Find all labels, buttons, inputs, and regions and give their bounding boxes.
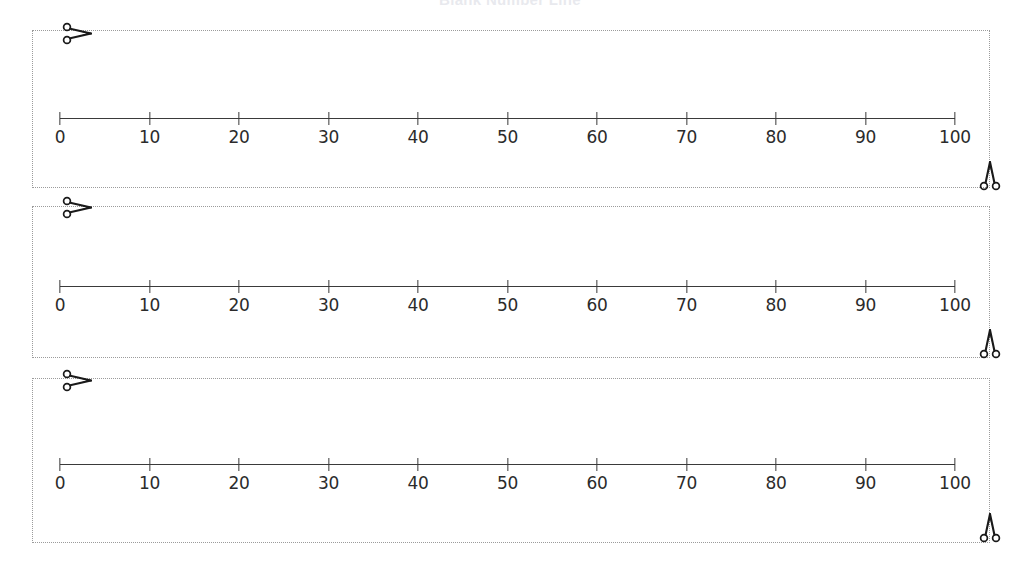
axis-tick — [507, 280, 508, 293]
axis-tick-label: 70 — [676, 473, 697, 493]
axis-tick — [686, 112, 687, 125]
axis-tick — [328, 112, 329, 125]
axis-tick-label: 0 — [55, 127, 66, 147]
axis-tick-label: 80 — [765, 295, 786, 315]
number-line: 0102030405060708090100 — [60, 273, 955, 317]
axis-tick-label: 10 — [139, 473, 160, 493]
axis-tick — [775, 458, 776, 471]
scissors-icon — [61, 195, 95, 221]
axis-tick-label: 50 — [497, 473, 518, 493]
axis-tick — [775, 280, 776, 293]
axis-tick-label: 10 — [139, 295, 160, 315]
axis-tick-label: 90 — [855, 127, 876, 147]
scissors-icon — [977, 326, 1003, 360]
axis-tick — [596, 112, 597, 125]
axis-tick — [507, 112, 508, 125]
axis-tick-label: 70 — [676, 127, 697, 147]
axis-tick-label: 60 — [586, 127, 607, 147]
axis-tick — [865, 112, 866, 125]
axis-tick — [149, 112, 150, 125]
axis-tick — [59, 112, 60, 125]
axis-tick — [954, 280, 955, 293]
axis-tick — [686, 280, 687, 293]
axis-tick — [238, 280, 239, 293]
axis-tick-label: 80 — [765, 473, 786, 493]
axis-tick-label: 80 — [765, 127, 786, 147]
number-line: 0102030405060708090100 — [60, 105, 955, 149]
axis-tick-label: 40 — [407, 127, 428, 147]
axis-tick-label: 50 — [497, 127, 518, 147]
axis-tick-label: 70 — [676, 295, 697, 315]
number-line-strip: 0102030405060708090100 — [32, 378, 990, 543]
axis-tick-label: 100 — [939, 127, 971, 147]
axis-tick-label: 90 — [855, 473, 876, 493]
axis-tick-label: 0 — [55, 295, 66, 315]
axis-tick-label: 30 — [318, 295, 339, 315]
axis-tick-label: 60 — [586, 473, 607, 493]
axis-tick-label: 90 — [855, 295, 876, 315]
axis-tick — [865, 280, 866, 293]
number-line: 0102030405060708090100 — [60, 451, 955, 495]
scissors-icon — [61, 368, 95, 394]
axis-tick — [59, 280, 60, 293]
axis-tick-label: 100 — [939, 473, 971, 493]
axis-tick — [954, 112, 955, 125]
axis-tick — [686, 458, 687, 471]
axis-tick-label: 100 — [939, 295, 971, 315]
axis-tick — [596, 458, 597, 471]
axis-tick — [417, 280, 418, 293]
axis-tick — [149, 280, 150, 293]
axis-tick-label: 20 — [228, 473, 249, 493]
axis-tick-label: 10 — [139, 127, 160, 147]
scissors-icon — [977, 158, 1003, 192]
axis-tick-label: 20 — [228, 295, 249, 315]
number-line-strip: 0102030405060708090100 — [32, 30, 990, 188]
axis-tick-label: 40 — [407, 473, 428, 493]
axis-tick-label: 20 — [228, 127, 249, 147]
axis-tick-label: 40 — [407, 295, 428, 315]
axis-tick — [417, 112, 418, 125]
scissors-icon — [977, 510, 1003, 544]
axis-tick-label: 0 — [55, 473, 66, 493]
axis-tick-label: 60 — [586, 295, 607, 315]
axis-tick — [59, 458, 60, 471]
axis-tick — [954, 458, 955, 471]
number-line-strip: 0102030405060708090100 — [32, 206, 990, 358]
axis-tick — [149, 458, 150, 471]
axis-tick — [775, 112, 776, 125]
scissors-icon — [61, 21, 95, 47]
axis-tick-label: 30 — [318, 473, 339, 493]
axis-tick — [417, 458, 418, 471]
axis-tick — [238, 458, 239, 471]
axis-tick — [865, 458, 866, 471]
axis-tick — [596, 280, 597, 293]
axis-tick — [507, 458, 508, 471]
axis-tick — [328, 458, 329, 471]
worksheet-title: Blank Number Line — [0, 0, 1020, 8]
axis-tick-label: 30 — [318, 127, 339, 147]
axis-tick — [328, 280, 329, 293]
axis-tick — [238, 112, 239, 125]
axis-tick-label: 50 — [497, 295, 518, 315]
